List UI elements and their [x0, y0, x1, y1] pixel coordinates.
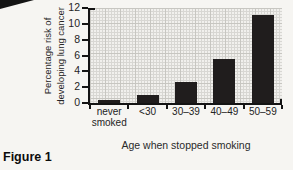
page-corner-mark	[0, 0, 34, 9]
x-axis-label: Age when stopped smoking	[90, 139, 282, 151]
bar-4	[252, 15, 274, 103]
x-tick-mark	[127, 105, 129, 109]
y-tick-mark	[82, 102, 88, 104]
y-tick-label-2: 2	[58, 81, 80, 92]
y-tick-mark	[82, 70, 88, 72]
y-tick-label-10: 10	[58, 18, 80, 29]
bar-3	[213, 59, 235, 103]
x-category-label-1: <30	[126, 107, 170, 118]
y-tick-label-6: 6	[58, 50, 80, 61]
plot-area	[88, 8, 282, 105]
scanned-figure-page: Percentage risk of developing lung cance…	[0, 0, 293, 170]
y-tick-mark	[82, 86, 88, 88]
y-tick-mark	[82, 39, 88, 41]
x-category-label-0: never smoked	[87, 107, 131, 128]
figure-caption: Figure 1	[3, 150, 52, 164]
x-tick-mark	[281, 105, 283, 109]
x-axis-end-cap	[280, 99, 282, 104]
x-tick-mark	[243, 105, 245, 109]
x-tick-mark	[89, 105, 91, 109]
x-tick-mark	[204, 105, 206, 109]
y-axis-top-cap	[90, 8, 95, 10]
y-tick-label-0: 0	[58, 97, 80, 108]
y-tick-mark	[82, 55, 88, 57]
y-tick-label-12: 12	[58, 2, 80, 13]
bar-0	[98, 100, 120, 103]
y-tick-mark	[82, 23, 88, 25]
y-tick-label-8: 8	[58, 34, 80, 45]
x-category-label-2: 30–39	[164, 107, 208, 118]
x-category-label-4: 50–59	[241, 107, 285, 118]
y-tick-mark	[82, 7, 88, 9]
bar-1	[137, 95, 159, 103]
y-tick-label-4: 4	[58, 65, 80, 76]
x-tick-mark	[166, 105, 168, 109]
x-category-label-3: 40–49	[202, 107, 246, 118]
bar-2	[175, 82, 197, 103]
